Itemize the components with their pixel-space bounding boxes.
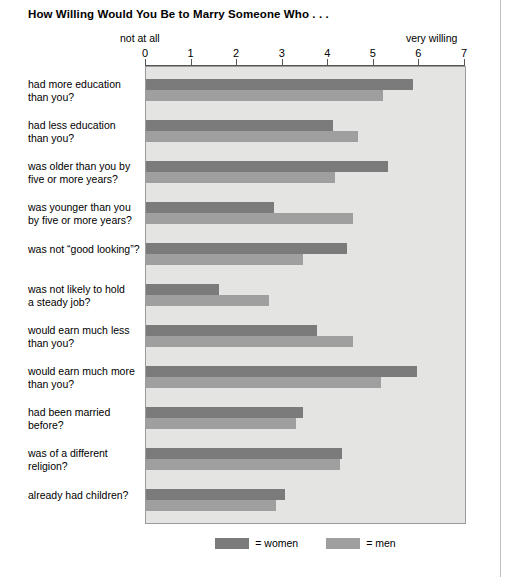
chart-category-row: was of a differentreligion? [0, 448, 514, 470]
category-label: was not “good looking”? [28, 243, 140, 256]
chart-category-row: was not likely to holda steady job? [0, 284, 514, 306]
bar-men [146, 418, 296, 429]
category-label: had less educationthan you? [28, 119, 140, 144]
category-label: would earn much morethan you? [28, 365, 140, 390]
category-label-line: religion? [28, 460, 140, 473]
x-tick-label-4: 4 [317, 47, 337, 59]
category-label-line: was younger than you [28, 201, 140, 214]
category-label-line: by five or more years? [28, 214, 140, 227]
bar-group [146, 202, 353, 224]
legend-swatch-men [326, 538, 360, 549]
x-tick-label-2: 2 [226, 47, 246, 59]
bar-women [146, 284, 219, 295]
category-label-line: was older than you by [28, 160, 140, 173]
category-label-line: five or more years? [28, 173, 140, 186]
bar-women [146, 79, 413, 90]
category-label: already had children? [28, 489, 140, 502]
x-tick-mark-6 [418, 59, 419, 66]
bar-men [146, 336, 353, 347]
x-tick-label-6: 6 [408, 47, 428, 59]
category-label: was not likely to holda steady job? [28, 283, 140, 308]
category-label: was younger than youby five or more year… [28, 201, 140, 226]
bar-men [146, 213, 353, 224]
bar-men [146, 172, 335, 183]
bar-women [146, 366, 417, 377]
category-label-line: would earn much less [28, 324, 140, 337]
bar-men [146, 295, 269, 306]
bar-group [146, 325, 353, 347]
axis-caption-low: not at all [120, 32, 160, 44]
bar-men [146, 377, 381, 388]
chart-category-row: would earn much lessthan you? [0, 325, 514, 347]
chart-category-row: was older than you byfive or more years? [0, 161, 514, 183]
chart-figure: How Willing Would You Be to Marry Someon… [0, 0, 514, 577]
x-tick-mark-2 [236, 59, 237, 66]
chart-category-row: was not “good looking”? [0, 243, 514, 265]
bar-group [146, 79, 413, 101]
category-label: was older than you byfive or more years? [28, 160, 140, 185]
bar-group [146, 120, 358, 142]
chart-category-row: had more educationthan you? [0, 79, 514, 101]
chart-title: How Willing Would You Be to Marry Someon… [28, 8, 329, 20]
category-label-line: than you? [28, 91, 140, 104]
axis-caption-high: very willing [406, 32, 457, 44]
category-label-line: had been married [28, 406, 140, 419]
category-label-line: had more education [28, 78, 140, 91]
x-tick-label-5: 5 [363, 47, 383, 59]
x-tick-mark-4 [327, 59, 328, 66]
bar-women [146, 243, 347, 254]
category-label: had more educationthan you? [28, 78, 140, 103]
chart-category-row: already had children? [0, 489, 514, 511]
x-axis-tick-labels: 01234567 [145, 47, 463, 61]
legend-swatch-women [215, 538, 249, 549]
category-label-line: before? [28, 419, 140, 432]
bar-group [146, 448, 342, 470]
bar-group [146, 161, 388, 183]
bar-women [146, 202, 274, 213]
category-label-line: a steady job? [28, 296, 140, 309]
bar-group [146, 284, 269, 306]
chart-category-row: had less educationthan you? [0, 120, 514, 142]
chart-category-row: had been marriedbefore? [0, 407, 514, 429]
category-label-line: would earn much more [28, 365, 140, 378]
bar-men [146, 459, 340, 470]
x-tick-mark-7 [464, 59, 465, 66]
category-label: was of a differentreligion? [28, 447, 140, 472]
category-label-line: already had children? [28, 489, 140, 502]
category-label-line: than you? [28, 132, 140, 145]
bar-women [146, 407, 303, 418]
bar-men [146, 254, 303, 265]
x-tick-mark-1 [191, 59, 192, 66]
chart-category-row: would earn much morethan you? [0, 366, 514, 388]
x-tick-label-1: 1 [181, 47, 201, 59]
x-tick-label-7: 7 [454, 47, 474, 59]
category-label-line: had less education [28, 119, 140, 132]
category-label-line: was of a different [28, 447, 140, 460]
x-tick-label-0: 0 [135, 47, 155, 59]
x-tick-label-3: 3 [272, 47, 292, 59]
legend-item-women: = women [215, 537, 298, 549]
x-tick-mark-0 [145, 59, 146, 66]
bar-group [146, 407, 303, 429]
bar-men [146, 131, 358, 142]
x-tick-mark-3 [282, 59, 283, 66]
bar-women [146, 325, 317, 336]
bar-group [146, 366, 417, 388]
category-label-line: than you? [28, 378, 140, 391]
legend-item-men: = men [326, 537, 395, 549]
bar-men [146, 90, 383, 101]
category-label-line: was not “good looking”? [28, 243, 140, 256]
category-label: would earn much lessthan you? [28, 324, 140, 349]
bar-women [146, 161, 388, 172]
chart-legend: = women= men [145, 534, 466, 552]
chart-category-row: was younger than youby five or more year… [0, 202, 514, 224]
bar-group [146, 243, 347, 265]
category-label-line: than you? [28, 337, 140, 350]
bar-women [146, 448, 342, 459]
x-tick-mark-5 [373, 59, 374, 66]
bar-group [146, 489, 285, 511]
bar-women [146, 120, 333, 131]
legend-label-men: = men [366, 537, 395, 549]
legend-label-women: = women [255, 537, 298, 549]
bar-men [146, 500, 276, 511]
